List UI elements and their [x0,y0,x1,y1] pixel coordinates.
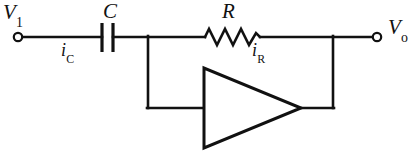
capacitor-current-label: iC [61,41,74,63]
resistor-current-label: iR [252,41,265,63]
schematic-canvas [0,0,412,158]
circuit-diagram: V1 Vo C R iC iR [0,0,412,158]
input-terminal-node [14,33,22,41]
output-terminal-node [373,33,381,41]
capacitor-label: C [103,1,117,22]
resistor-label: R [222,1,235,22]
input-voltage-label: V1 [3,2,23,27]
amplifier-triangle [204,68,301,148]
output-voltage-label: Vo [388,17,408,42]
